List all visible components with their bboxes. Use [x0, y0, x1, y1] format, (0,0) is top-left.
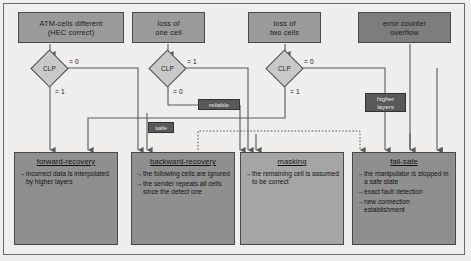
tag-reliable-label: reliable — [209, 101, 229, 108]
node-backward-recovery[interactable]: backward-recovery the following cells ar… — [131, 152, 235, 245]
node-label-line2: overflow — [390, 28, 418, 37]
node-forward-recovery-list: incorrect data is interpolated by higher… — [19, 170, 113, 186]
tag-reliable[interactable]: reliable — [198, 99, 240, 110]
decision-clp-1-label: CLP — [36, 55, 63, 82]
node-masking-list: the remaining cell is assumed to be corr… — [245, 170, 339, 186]
list-item: new connection establishment — [357, 198, 451, 214]
node-label-line2: two cells — [270, 28, 299, 37]
node-label-line1: error counter — [383, 19, 427, 28]
edge-label-clp3-down: = 1 — [290, 88, 300, 95]
wire-clp3-0-to-higher — [299, 68, 385, 93]
tag-safe-label: safe — [155, 124, 167, 131]
edge-label-clp2-down: = 0 — [173, 88, 183, 95]
node-label-line2: (HEC correct) — [48, 28, 94, 37]
diagram-canvas: ATM-cells different (HEC correct) loss o… — [0, 0, 471, 261]
list-item: incorrect data is interpolated by higher… — [19, 170, 113, 186]
tag-higher-layers[interactable]: higher layers — [365, 93, 406, 112]
node-masking[interactable]: masking the remaining cell is assumed to… — [240, 152, 344, 245]
list-item: the manipulator is stopped in a safe sta… — [357, 170, 451, 186]
edge-label-clp2-right: = 1 — [187, 58, 197, 65]
tag-higher-layers-line1: higher — [377, 95, 394, 102]
edge-label-clp3-right: = 0 — [304, 58, 314, 65]
list-item: the remaining cell is assumed to be corr… — [245, 170, 339, 186]
node-error-counter-overflow[interactable]: error counter overflow — [358, 12, 451, 43]
wire-dotted-to-masking — [198, 131, 360, 150]
edge-label-clp1-down: = 1 — [55, 88, 65, 95]
wire-branch-to-forward — [88, 118, 198, 150]
list-item: the sender repeats all cells since the d… — [136, 180, 230, 196]
decision-clp-2-label: CLP — [154, 55, 181, 82]
list-item: exact fault detection — [357, 188, 451, 196]
node-loss-of-one-cell[interactable]: loss of one cell — [132, 12, 205, 43]
decision-clp-3-label: CLP — [271, 55, 298, 82]
node-backward-recovery-list: the following cells are ignored the send… — [136, 170, 230, 196]
node-label-line1: loss of — [273, 19, 295, 28]
node-atm-cells-different[interactable]: ATM-cells different (HEC correct) — [18, 12, 124, 43]
node-masking-header: masking — [245, 158, 339, 166]
node-label-line2: one cell — [155, 28, 181, 37]
node-forward-recovery[interactable]: forward-recovery incorrect data is inter… — [14, 152, 118, 245]
node-label-line1: loss of — [157, 19, 179, 28]
tag-higher-layers-line2: layers — [377, 103, 394, 110]
node-fail-safe-header: fail-safe — [357, 158, 451, 166]
node-fail-safe-list: the manipulator is stopped in a safe sta… — [357, 170, 451, 214]
node-forward-recovery-header: forward-recovery — [19, 158, 113, 166]
list-item: the following cells are ignored — [136, 170, 230, 178]
node-backward-recovery-header: backward-recovery — [136, 158, 230, 166]
node-loss-of-two-cells[interactable]: loss of two cells — [248, 12, 321, 43]
node-label-line1: ATM-cells different — [40, 19, 103, 28]
wire-clp1-0-to-backward — [64, 68, 138, 150]
edge-label-clp1-right: = 0 — [69, 58, 79, 65]
node-fail-safe[interactable]: fail-safe the manipulator is stopped in … — [352, 152, 456, 245]
tag-safe[interactable]: safe — [148, 122, 174, 133]
